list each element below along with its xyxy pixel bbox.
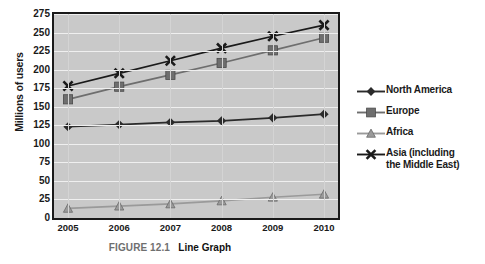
x-tick-2008: 2008 <box>211 222 232 233</box>
y-tick-225: 225 <box>20 46 50 56</box>
gridline-horizontal <box>54 14 338 15</box>
y-tick-175: 175 <box>20 83 50 93</box>
x-axis-tick-labels: 200520062007200820092010 <box>52 222 340 238</box>
gridline-vertical <box>273 14 274 218</box>
y-tick-50: 50 <box>20 176 50 186</box>
series-layer <box>54 14 338 218</box>
gridline-vertical <box>324 14 325 218</box>
y-tick-75: 75 <box>20 157 50 167</box>
legend-marker-cross-icon <box>356 148 386 161</box>
gridline-horizontal <box>54 107 338 108</box>
legend-marker-square-icon <box>356 106 386 119</box>
figure-caption: FIGURE 12.1 Line Graph <box>0 242 340 253</box>
gridline-horizontal <box>54 181 338 182</box>
caption-title: Line Graph <box>178 242 231 253</box>
series-line-africa <box>68 194 324 208</box>
gridline-horizontal <box>54 125 338 126</box>
legend-item[interactable]: Europe <box>356 105 482 119</box>
x-tick-2007: 2007 <box>160 222 181 233</box>
legend-label: North America <box>386 84 452 96</box>
figure-line-graph: Millions of users 0255075100125150175200… <box>0 0 485 264</box>
legend-label: Europe <box>386 105 419 117</box>
series-line-asia-including-the-middle-east <box>68 25 324 86</box>
gridline-horizontal <box>54 144 338 145</box>
gridline-vertical <box>68 14 69 218</box>
x-tick-2005: 2005 <box>57 222 78 233</box>
legend-item[interactable]: Africa <box>356 126 482 140</box>
y-tick-100: 100 <box>20 139 50 149</box>
legend-marker-diamond-icon <box>356 85 386 98</box>
y-tick-200: 200 <box>20 65 50 75</box>
x-tick-2006: 2006 <box>109 222 130 233</box>
gridline-vertical <box>119 14 120 218</box>
gridline-horizontal <box>54 162 338 163</box>
caption-figure-number: FIGURE 12.1 <box>109 242 170 253</box>
legend: North AmericaEuropeAfricaAsia (including… <box>356 84 482 177</box>
legend-label-line2: the Middle East) <box>386 159 459 170</box>
legend-label: Africa <box>386 126 413 138</box>
gridline-horizontal <box>54 51 338 52</box>
legend-item[interactable]: North America <box>356 84 482 98</box>
y-tick-125: 125 <box>20 120 50 130</box>
x-tick-2009: 2009 <box>262 222 283 233</box>
y-tick-150: 150 <box>20 102 50 112</box>
y-axis-tick-labels: 0255075100125150175200225250275 <box>20 0 50 264</box>
gridline-vertical <box>170 14 171 218</box>
legend-label: Asia (includingthe Middle East) <box>386 147 459 170</box>
gridline-horizontal <box>54 199 338 200</box>
legend-marker-triangle-icon <box>356 127 386 140</box>
y-tick-275: 275 <box>20 9 50 19</box>
y-tick-250: 250 <box>20 28 50 38</box>
gridline-horizontal <box>54 33 338 34</box>
gridline-vertical <box>222 14 223 218</box>
y-tick-0: 0 <box>20 213 50 223</box>
y-tick-25: 25 <box>20 194 50 204</box>
gridline-horizontal <box>54 70 338 71</box>
gridline-horizontal <box>54 88 338 89</box>
x-tick-2010: 2010 <box>313 222 334 233</box>
series-line-europe <box>68 38 324 100</box>
legend-item[interactable]: Asia (includingthe Middle East) <box>356 147 482 170</box>
plot-area <box>52 12 340 220</box>
